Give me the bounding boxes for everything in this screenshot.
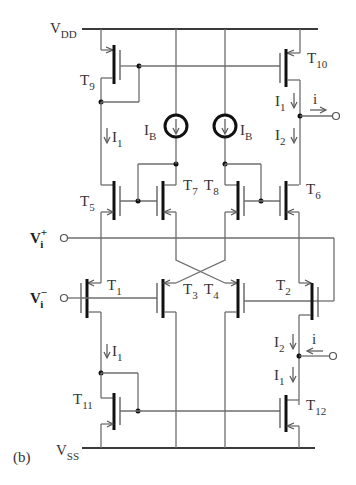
output-terminal-top[interactable] <box>333 113 340 120</box>
cross-wire-t8-t3 <box>176 250 225 283</box>
transistor-t5 <box>101 181 157 283</box>
transistor-t6 <box>280 181 299 283</box>
t2-label: T2 <box>276 277 291 297</box>
current-source-ib-right <box>214 115 236 137</box>
i1-label-left-bottom: I1 <box>112 343 123 363</box>
t7-label: T7 <box>183 177 198 197</box>
t9-label: T9 <box>80 72 95 92</box>
transistor-t3 <box>157 279 176 448</box>
i2-arrow-right-bottom <box>290 334 296 349</box>
v-minus-label: V−i <box>30 286 47 310</box>
vdd-label: VDD <box>50 20 77 40</box>
ib-label-left: IB <box>144 122 156 142</box>
i1-arrow-left-top <box>104 128 110 143</box>
v-minus-terminal[interactable] <box>61 295 68 302</box>
v-plus-terminal[interactable] <box>61 235 68 242</box>
i1-arrow-right-top <box>291 93 297 108</box>
i1-arrow-right-bottom <box>290 367 296 382</box>
cross-wire-t7-t4 <box>176 250 225 283</box>
t6-label: T6 <box>306 181 321 201</box>
t5-label: T5 <box>80 193 95 213</box>
transistor-t7 <box>157 164 176 250</box>
i2-label-right-bottom: I2 <box>274 334 285 354</box>
t11-label: T11 <box>73 391 93 411</box>
i-out-label-top: i <box>313 91 317 107</box>
i-out-label-bottom: i <box>312 331 316 347</box>
figure-label: (b) <box>13 449 31 466</box>
i-out-arrow-bottom <box>307 348 323 354</box>
vss-label: VSS <box>56 442 79 462</box>
t1-label: T1 <box>107 277 122 297</box>
i1-label-right-bottom: I1 <box>274 367 285 387</box>
current-source-ib-left <box>165 115 187 137</box>
ib-label-right: IB <box>240 122 252 142</box>
i2-label-right-top: I2 <box>275 127 286 147</box>
t3-label: T3 <box>183 281 198 301</box>
i-out-arrow-top <box>310 107 326 113</box>
t4-label: T4 <box>204 281 219 301</box>
i1-arrow-left-bottom <box>104 344 110 358</box>
transistor-t8 <box>225 164 280 250</box>
transistor-t4 <box>225 279 310 448</box>
output-terminal-bottom[interactable] <box>330 353 337 360</box>
t10-label: T10 <box>307 50 328 70</box>
i1-label-right-top: I1 <box>275 93 286 113</box>
i2-arrow-right-top <box>291 128 297 143</box>
t12-label: T12 <box>306 397 326 417</box>
t8-label: T8 <box>204 177 219 197</box>
transistor-t11 <box>101 373 280 448</box>
circuit-schematic: VDD VSS (b) T9 I1 T5 <box>0 0 356 485</box>
transistor-t9 <box>99 29 142 105</box>
transistor-t12 <box>280 395 299 448</box>
v-plus-label: V+i <box>30 226 47 250</box>
i1-label-left-top: I1 <box>112 129 123 149</box>
